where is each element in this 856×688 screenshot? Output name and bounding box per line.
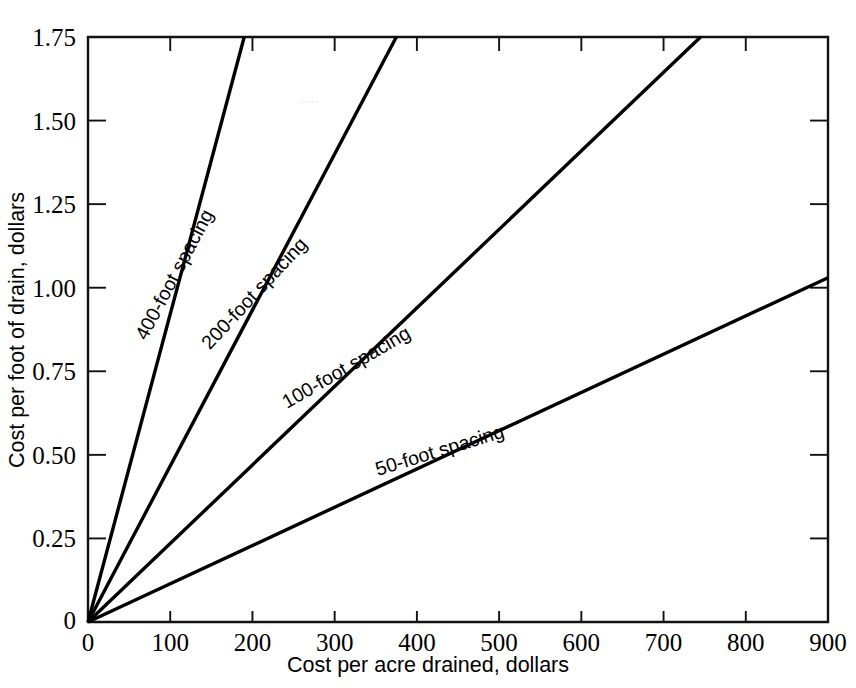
x-ticklabel: 800 (727, 629, 765, 656)
y-axis-ticklabels: 00.250.500.751.001.251.501.75 (32, 24, 76, 634)
y-ticklabel: 0.75 (32, 358, 76, 385)
x-ticklabel: 400 (398, 629, 436, 656)
y-ticklabel: 1.00 (32, 275, 76, 302)
y-axis-ticks (88, 121, 106, 539)
series-label: 400-foot spacing (130, 206, 217, 344)
drain-cost-line-chart: 0100200300400500600700800900 00.250.500.… (0, 0, 856, 688)
x-axis-ticks (170, 611, 746, 622)
x-axis-title: Cost per acre drained, dollars (287, 653, 569, 677)
x-ticklabel: 100 (151, 629, 189, 656)
right-axis-ticks (810, 121, 828, 539)
x-ticklabel: 600 (563, 629, 601, 656)
x-ticklabel: 900 (809, 629, 847, 656)
series-label: 100-foot spacing (278, 321, 414, 412)
x-ticklabel: 500 (480, 629, 518, 656)
y-ticklabel: 1.25 (32, 191, 76, 218)
top-axis-ticks (170, 37, 746, 51)
x-ticklabel: 700 (645, 629, 683, 656)
y-ticklabel: 1.75 (32, 24, 76, 51)
x-ticklabel: 200 (234, 629, 272, 656)
x-axis-ticklabels: 0100200300400500600700800900 (82, 629, 847, 656)
x-ticklabel: 300 (316, 629, 354, 656)
y-ticklabel: 1.50 (32, 108, 76, 135)
series-label: 200-foot spacing (197, 233, 311, 353)
chart-figure: 0100200300400500600700800900 00.250.500.… (0, 0, 856, 688)
x-ticklabel: 0 (82, 629, 95, 656)
series-inline-labels: 400-foot spacing200-foot spacing100-foot… (130, 206, 506, 480)
series-lines-group (88, 37, 828, 622)
y-ticklabel: 0 (64, 607, 77, 634)
scan-watermark-artifact: ····· (300, 95, 318, 107)
y-ticklabel: 0.25 (32, 525, 76, 552)
y-ticklabel: 0.50 (32, 442, 76, 469)
series-label: 50-foot spacing (373, 420, 507, 480)
y-axis-title: Cost per foot of drain, dollars (5, 192, 29, 468)
